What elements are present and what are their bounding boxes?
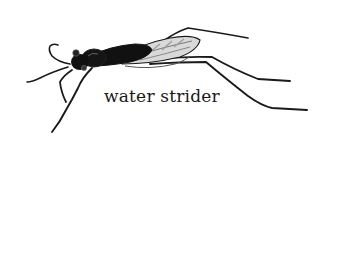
eye <box>73 50 79 56</box>
illustration-canvas: water strider <box>0 0 360 278</box>
water-strider-illustration <box>0 0 360 278</box>
caption-label: water strider <box>104 86 220 106</box>
antenna-upper <box>49 44 70 64</box>
hind-leg-1 <box>148 57 290 81</box>
front-leg-right <box>52 68 92 132</box>
front-leg-left <box>60 70 72 102</box>
